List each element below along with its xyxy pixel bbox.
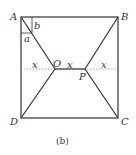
geometry-figure: A B C D O P b a x x x (b) [0, 0, 136, 155]
label-x-right: x [101, 59, 107, 70]
label-x-left: x [32, 59, 38, 70]
label-o-point: O [53, 58, 61, 69]
label-angle-a: a [24, 33, 30, 44]
label-d-vertex: D [9, 116, 18, 127]
figure-caption: (b) [56, 136, 69, 146]
label-c-vertex: C [121, 116, 129, 127]
label-p-point: P [78, 71, 86, 82]
label-angle-b: b [34, 20, 40, 31]
label-b-vertex: B [120, 11, 128, 22]
label-x-middle: x [67, 59, 73, 70]
label-a-vertex: A [9, 11, 17, 22]
segment-do [21, 69, 55, 118]
segment-cp [85, 69, 118, 118]
